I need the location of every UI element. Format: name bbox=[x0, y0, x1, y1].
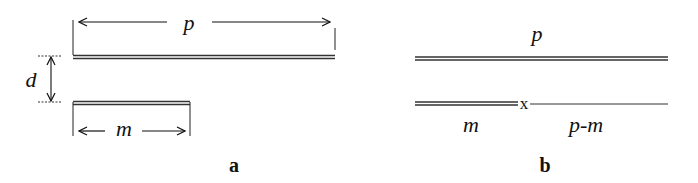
m-dimension-arrow: m bbox=[73, 102, 190, 141]
panel-b: p x m p-m b bbox=[415, 21, 668, 176]
bottom-strand-a bbox=[73, 102, 190, 105]
d-dimension-arrow: d bbox=[26, 56, 63, 102]
panel-a: p d m a bbox=[26, 10, 336, 176]
m-label-b: m bbox=[463, 112, 479, 137]
d-label: d bbox=[26, 67, 38, 92]
top-strand-b bbox=[415, 57, 668, 60]
p-label-a: p bbox=[182, 10, 195, 35]
diagram-canvas: p d m a p bbox=[0, 0, 698, 183]
bottom-strand-b: x bbox=[415, 94, 668, 113]
panel-b-caption: b bbox=[539, 154, 550, 176]
junction-marker: x bbox=[520, 94, 529, 113]
p-minus-m-label: p-m bbox=[567, 112, 603, 137]
m-label-a: m bbox=[116, 116, 132, 141]
top-strand-a bbox=[73, 56, 335, 59]
panel-a-caption: a bbox=[229, 154, 239, 176]
p-label-b: p bbox=[530, 21, 543, 46]
p-dimension-arrow: p bbox=[73, 10, 335, 55]
